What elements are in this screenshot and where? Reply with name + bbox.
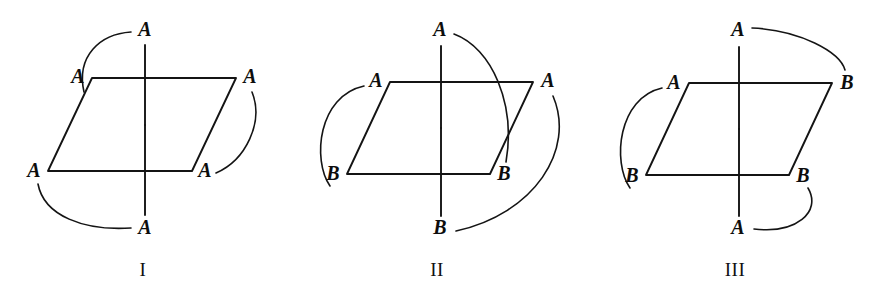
arc-apex-top-to-bottomright (454, 34, 508, 162)
substituent-label-apex-top: A (431, 18, 446, 40)
chemistry-structures-figure: AAAAAAIAAABBBIIAABBBAIII (0, 0, 879, 298)
substituent-label-vertex-top-left: A (69, 65, 84, 87)
equatorial-plane-parallelogram (48, 78, 236, 171)
substituent-label-apex-bottom: B (432, 216, 446, 238)
arc-apex-top-to-topright (752, 28, 845, 70)
structure-caption-III: III (725, 259, 745, 280)
substituent-label-apex-top: A (729, 18, 744, 40)
structure-3: AABBBAIII (621, 18, 854, 281)
substituent-label-vertex-bottom-left: A (25, 159, 40, 181)
substituent-label-vertex-top-left: A (665, 71, 680, 93)
substituent-label-vertex-bottom-right: A (196, 159, 211, 181)
substituent-label-vertex-bottom-left: B (624, 164, 638, 186)
substituent-label-vertex-bottom-left: B (325, 162, 339, 184)
diagram-canvas: AAAAAAIAAABBBIIAABBBAIII (0, 0, 879, 298)
substituent-label-vertex-top-right: B (839, 71, 853, 93)
structure-2: AAABBBII (321, 18, 560, 281)
substituent-label-vertex-bottom-right: B (795, 164, 809, 186)
structure-1: AAAAAAI (25, 18, 256, 281)
structure-caption-I: I (140, 259, 147, 280)
substituent-label-vertex-top-right: A (539, 69, 554, 91)
arc-topright-to-bottomright (216, 92, 256, 173)
arc-bottomright-to-apex-bottom (754, 188, 812, 230)
substituent-label-vertex-top-left: A (367, 69, 382, 91)
equatorial-plane-parallelogram (347, 82, 533, 174)
substituent-label-vertex-top-right: A (241, 65, 256, 87)
substituent-label-apex-bottom: A (729, 216, 744, 238)
arc-bottomleft-to-apex-bottom (38, 184, 131, 228)
substituent-label-vertex-bottom-right: B (496, 162, 510, 184)
substituent-label-apex-top: A (136, 18, 151, 40)
structure-caption-II: II (430, 259, 444, 280)
substituent-label-apex-bottom: A (136, 216, 151, 238)
